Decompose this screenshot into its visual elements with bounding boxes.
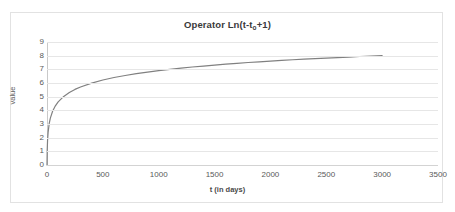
gridline-y bbox=[47, 151, 438, 152]
data-series-line bbox=[47, 42, 438, 165]
x-axis-ticks: 0500100015002000250030003500 bbox=[47, 170, 438, 182]
y-tick-label: 1 bbox=[14, 147, 44, 155]
y-tick-label: 4 bbox=[14, 106, 44, 114]
y-tick-label: 0 bbox=[14, 161, 44, 169]
x-tick-label: 500 bbox=[83, 170, 123, 179]
gridline-y bbox=[47, 56, 438, 57]
y-tick-label: 2 bbox=[14, 134, 44, 142]
x-tick-label: 1500 bbox=[195, 170, 235, 179]
y-tick-label: 5 bbox=[14, 93, 44, 101]
x-tick-label: 2000 bbox=[250, 170, 290, 179]
x-tick-label: 0 bbox=[27, 170, 67, 179]
y-tick-label: 9 bbox=[14, 38, 44, 46]
gridline-y bbox=[47, 69, 438, 70]
x-axis-label: t (in days) bbox=[11, 185, 444, 194]
chart-title: Operator Ln(t-to+1) bbox=[11, 19, 444, 30]
y-tick-label: 3 bbox=[14, 120, 44, 128]
y-tick-label: 8 bbox=[14, 52, 44, 60]
chart-title-tail: +1) bbox=[257, 19, 271, 30]
plot-area bbox=[47, 42, 438, 165]
chart-title-subscript: o bbox=[253, 24, 257, 31]
x-tick-label: 3000 bbox=[362, 170, 402, 179]
chart-container: Operator Ln(t-to+1) value 0123456789 050… bbox=[10, 12, 443, 203]
gridline-y bbox=[47, 110, 438, 111]
x-tick-label: 3500 bbox=[418, 170, 455, 179]
gridline-y bbox=[47, 124, 438, 125]
x-tick-label: 2500 bbox=[306, 170, 346, 179]
x-tick-label: 1000 bbox=[139, 170, 179, 179]
y-tick-label: 7 bbox=[14, 65, 44, 73]
gridline-y bbox=[47, 138, 438, 139]
gridline-y bbox=[47, 42, 438, 43]
gridline-y bbox=[47, 165, 438, 166]
y-tick-label: 6 bbox=[14, 79, 44, 87]
y-axis-ticks: 0123456789 bbox=[11, 42, 44, 165]
chart-title-main: Operator Ln(t-t bbox=[184, 19, 253, 30]
gridline-y bbox=[47, 83, 438, 84]
gridline-y bbox=[47, 97, 438, 98]
